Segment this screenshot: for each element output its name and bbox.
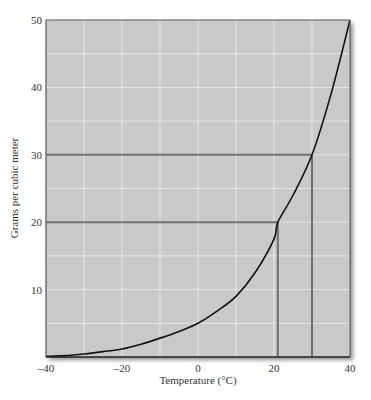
y-axis-ticks: 1020304050 xyxy=(31,14,43,296)
x-tick-label: –20 xyxy=(113,362,131,374)
y-tick-label: 10 xyxy=(31,284,43,296)
y-tick-label: 20 xyxy=(31,216,43,228)
y-tick-label: 40 xyxy=(31,81,43,93)
x-tick-label: 20 xyxy=(269,362,281,374)
x-tick-label: –40 xyxy=(37,362,55,374)
x-tick-label: 40 xyxy=(345,362,357,374)
x-axis-label: Temperature (°C) xyxy=(159,374,237,387)
y-tick-label: 50 xyxy=(31,14,43,26)
x-axis-ticks: –40–2002040 xyxy=(37,362,356,374)
x-tick-label: 0 xyxy=(195,362,201,374)
chart: –40–2002040 1020304050 Temperature (°C) … xyxy=(0,0,371,400)
y-axis-label: Grams per cubic meter xyxy=(8,137,20,238)
y-tick-label: 30 xyxy=(31,149,43,161)
